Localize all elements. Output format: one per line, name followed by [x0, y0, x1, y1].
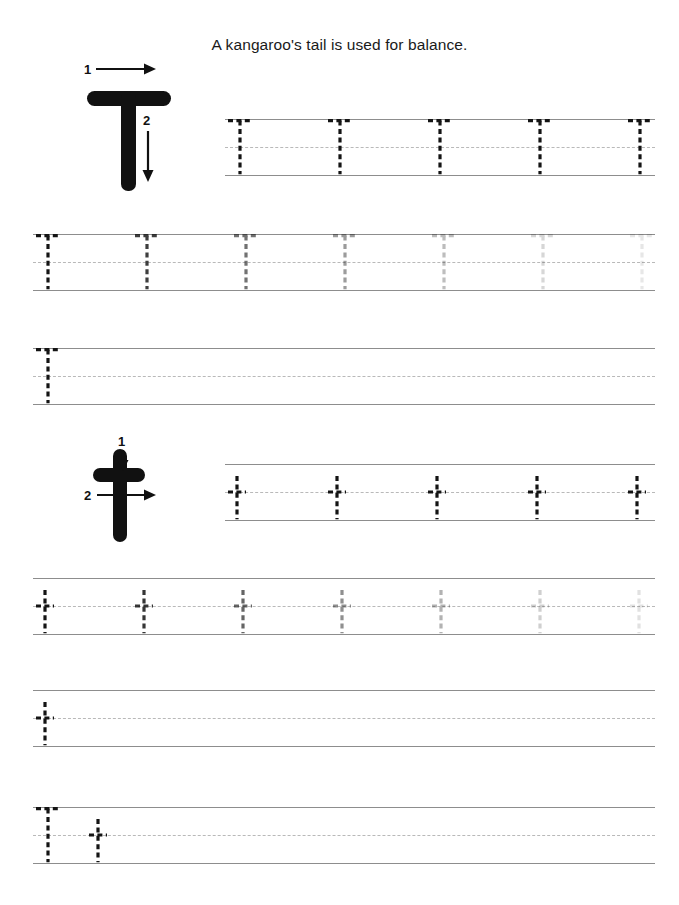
trace-glyph-uppercase-T — [629, 234, 655, 290]
trace-glyph-group — [33, 690, 655, 746]
lowercase-fade-row-5 — [33, 578, 655, 634]
trace-glyph-lowercase-t — [527, 464, 547, 520]
trace-glyph-lowercase-t — [431, 578, 451, 634]
trace-glyph-uppercase-T — [327, 119, 353, 175]
guideline-baseline — [33, 746, 655, 747]
trace-glyph-uppercase-T — [134, 234, 160, 290]
guideline-baseline — [33, 634, 655, 635]
trace-glyph-lowercase-t — [35, 578, 55, 634]
trace-glyph-uppercase-T — [431, 234, 457, 290]
trace-glyph-group — [33, 578, 655, 634]
trace-glyph-lowercase-t — [134, 578, 154, 634]
trace-glyph-group — [33, 807, 655, 863]
uppercase-blank-row-3 — [33, 348, 655, 404]
trace-glyph-uppercase-T — [627, 119, 653, 175]
page-title: A kangaroo's tail is used for balance. — [0, 36, 679, 54]
guideline-baseline — [225, 175, 655, 176]
guideline-baseline — [225, 520, 655, 521]
stroke-1-number: 1 — [84, 62, 91, 77]
worksheet-page: A kangaroo's tail is used for balance. 1… — [0, 0, 679, 905]
trace-glyph-group — [225, 464, 655, 520]
trace-glyph-lowercase-t — [88, 807, 108, 863]
trace-glyph-lowercase-t — [629, 578, 649, 634]
trace-glyph-uppercase-T — [35, 234, 61, 290]
trace-glyph-uppercase-T — [227, 119, 253, 175]
stroke-2-arrow-icon — [143, 131, 154, 182]
trace-glyph-uppercase-T — [35, 807, 61, 863]
trace-glyph-uppercase-T — [530, 234, 556, 290]
uppercase-T-model: 1 2 — [72, 58, 222, 198]
trace-glyph-lowercase-t — [627, 464, 647, 520]
uppercase-trace-row-1 — [225, 119, 655, 175]
stroke-1-number: 1 — [118, 434, 125, 449]
trace-glyph-group — [33, 234, 655, 290]
trace-glyph-lowercase-t — [233, 578, 253, 634]
guideline-baseline — [33, 290, 655, 291]
mixed-pair-row-7 — [33, 807, 655, 863]
trace-glyph-uppercase-T — [233, 234, 259, 290]
trace-glyph-uppercase-T — [427, 119, 453, 175]
stroke-2-number: 2 — [143, 113, 150, 128]
lowercase-t-model: 1 2 — [82, 432, 222, 550]
stroke-2-number: 2 — [84, 488, 91, 503]
trace-glyph-uppercase-T — [332, 234, 358, 290]
trace-glyph-group — [225, 119, 655, 175]
trace-glyph-group — [33, 348, 655, 404]
trace-glyph-uppercase-T — [35, 348, 61, 404]
guideline-baseline — [33, 863, 655, 864]
uppercase-fade-row-2 — [33, 234, 655, 290]
trace-glyph-lowercase-t — [327, 464, 347, 520]
lowercase-trace-row-4 — [225, 464, 655, 520]
trace-glyph-lowercase-t — [35, 690, 55, 746]
stroke-1-arrow-icon — [96, 64, 156, 75]
trace-glyph-lowercase-t — [530, 578, 550, 634]
trace-glyph-lowercase-t — [332, 578, 352, 634]
trace-glyph-lowercase-t — [427, 464, 447, 520]
trace-glyph-lowercase-t — [227, 464, 247, 520]
guideline-baseline — [33, 404, 655, 405]
lowercase-blank-row-6 — [33, 690, 655, 746]
trace-glyph-uppercase-T — [527, 119, 553, 175]
